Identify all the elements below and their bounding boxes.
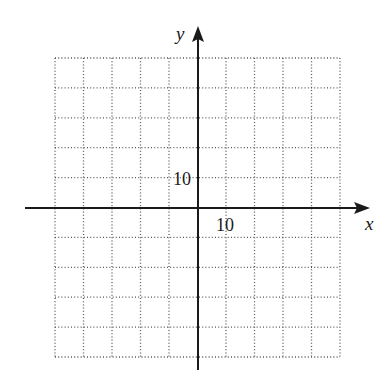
coordinate-plane: y x 10 10 [0, 0, 384, 370]
y-axis-label: y [174, 23, 185, 44]
x-axis-label: x [364, 213, 374, 234]
y-tick-label: 10 [173, 169, 191, 189]
x-tick-label: 10 [216, 215, 234, 235]
